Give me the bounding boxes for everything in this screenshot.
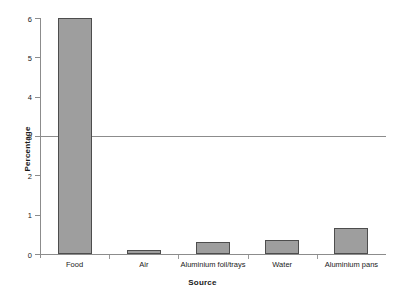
bar <box>334 228 368 254</box>
bar-chart: Percentage 0123456 FoodAirAluminium foil… <box>0 0 405 298</box>
y-tick: 0 <box>35 254 40 255</box>
x-tick-label: Aluminium foil/trays <box>180 260 245 269</box>
y-tick-label: 5 <box>28 53 32 62</box>
x-axis-line <box>40 254 386 255</box>
y-tick: 4 <box>35 97 40 98</box>
bar <box>265 240 299 254</box>
y-tick: 6 <box>35 18 40 19</box>
reference-line <box>40 136 386 137</box>
x-tick <box>178 255 179 259</box>
y-tick: 2 <box>35 175 40 176</box>
y-tick: 1 <box>35 215 40 216</box>
x-tick <box>248 255 249 259</box>
x-axis-title: Source <box>0 278 405 287</box>
x-tick-label: Water <box>272 260 292 269</box>
bar <box>127 250 161 254</box>
plot-area: 0123456 FoodAirAluminium foil/traysWater… <box>40 14 386 258</box>
bar <box>196 242 230 254</box>
y-tick-label: 1 <box>28 211 32 220</box>
x-tick <box>317 255 318 259</box>
bar <box>58 18 92 254</box>
y-tick: 5 <box>35 57 40 58</box>
x-tick-label: Aluminium pans <box>325 260 378 269</box>
x-tick <box>109 255 110 259</box>
y-tick-label: 2 <box>28 171 32 180</box>
y-tick-label: 6 <box>28 14 32 23</box>
x-tick-label: Food <box>66 260 83 269</box>
y-axis-line <box>40 18 41 258</box>
y-tick-label: 4 <box>28 93 32 102</box>
y-tick-label: 3 <box>28 132 32 141</box>
y-tick-label: 0 <box>28 250 32 259</box>
x-tick-label: Air <box>139 260 148 269</box>
